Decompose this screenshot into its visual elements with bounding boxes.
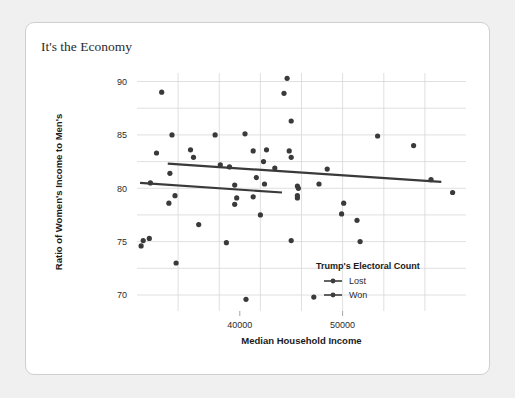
y-tick-label: 75 <box>117 237 127 247</box>
scatter-point <box>261 159 266 164</box>
scatter-point <box>147 236 152 241</box>
scatter-point <box>174 260 179 265</box>
scatter-point <box>243 297 248 302</box>
scatter-point <box>295 193 300 198</box>
y-tick-label: 85 <box>117 130 127 140</box>
legend-key-dot <box>331 293 336 298</box>
scatter-point <box>242 131 247 136</box>
scatter-point <box>224 240 229 245</box>
scatter-point <box>254 175 259 180</box>
scatter-point <box>316 181 321 186</box>
scatter-point <box>169 132 174 137</box>
y-tick-label: 90 <box>117 77 127 87</box>
scatter-point <box>285 76 290 81</box>
legend-item-lost[interactable]: Lost <box>324 276 367 286</box>
legend-title: Trump's Electoral Count <box>316 261 420 271</box>
scatter-point <box>289 238 294 243</box>
scatter-point <box>375 133 380 138</box>
x-tick-label: 40000 <box>227 320 252 330</box>
scatter-point <box>289 118 294 123</box>
scatter-point <box>191 155 196 160</box>
scatter-point <box>281 91 286 96</box>
scatter-point <box>339 211 344 216</box>
scatter-point <box>141 238 146 243</box>
trend-line <box>168 164 442 182</box>
scatter-point <box>411 143 416 148</box>
scatter-point <box>139 243 144 248</box>
scatter-point <box>358 239 363 244</box>
scatter-point <box>213 132 218 137</box>
scatter-point <box>341 201 346 206</box>
y-tick-label: 80 <box>117 184 127 194</box>
scatter-point <box>450 190 455 195</box>
scatter-point <box>251 148 256 153</box>
scatter-point <box>325 167 330 172</box>
x-tick-label: 50000 <box>330 320 355 330</box>
x-axis-title: Median Household Income <box>241 335 361 346</box>
scatter-point <box>354 218 359 223</box>
scatter-point <box>289 155 294 160</box>
scatter-plot: 70758085904000050000Median Household Inc… <box>26 23 491 376</box>
scatter-point <box>159 90 164 95</box>
scatter-point <box>172 193 177 198</box>
legend-label: Lost <box>349 276 367 286</box>
scatter-point <box>251 194 256 199</box>
legend-key-dot <box>331 279 336 284</box>
scatter-point <box>296 186 301 191</box>
scatter-point <box>167 171 172 176</box>
scatter-point <box>311 295 316 300</box>
scatter-point <box>287 148 292 153</box>
scatter-point <box>188 147 193 152</box>
scatter-point <box>262 181 267 186</box>
chart-card: It's the Economy 70758085904000050000Med… <box>25 22 490 375</box>
y-tick-label: 70 <box>117 290 127 300</box>
scatter-point <box>264 147 269 152</box>
legend-label: Won <box>349 290 367 300</box>
scatter-point <box>196 222 201 227</box>
scatter-point <box>154 150 159 155</box>
scatter-point <box>166 201 171 206</box>
y-axis-title: Ratio of Women's Income to Men's <box>53 114 64 270</box>
scatter-point <box>232 183 237 188</box>
scatter-point <box>232 202 237 207</box>
scatter-point <box>234 195 239 200</box>
scatter-point <box>258 212 263 217</box>
